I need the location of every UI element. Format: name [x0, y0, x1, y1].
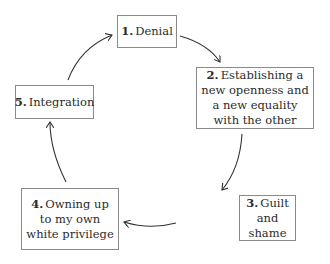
node-label: Integration — [29, 95, 95, 109]
arrow-owning-to-integration — [50, 122, 66, 182]
node-number: 2. — [207, 68, 219, 82]
node-establishing: 2.Establishing a new openness and a new … — [196, 67, 314, 129]
node-guilt: 3.Guilt and shame — [239, 195, 296, 241]
node-number: 4. — [31, 197, 43, 211]
node-number: 5. — [15, 95, 27, 109]
node-denial: 1.Denial — [117, 15, 177, 48]
node-label: Denial — [135, 24, 173, 38]
node-number: 3. — [246, 196, 258, 210]
node-integration: 5.Integration — [15, 85, 94, 119]
arrow-integration-to-denial — [68, 35, 112, 80]
arrow-guilt-to-owning — [124, 222, 176, 226]
arrow-denial-to-establishing — [180, 36, 220, 62]
arrow-establishing-to-guilt — [222, 134, 242, 190]
node-number: 1. — [121, 24, 133, 38]
node-owning: 4.Owning up to my own white privilege — [21, 188, 119, 250]
